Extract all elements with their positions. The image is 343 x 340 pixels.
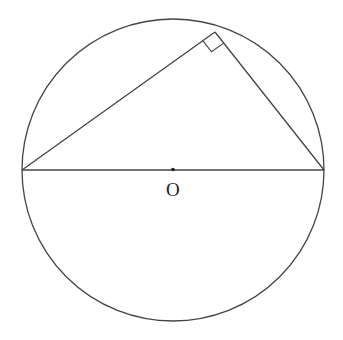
triangle-side-left [22, 32, 215, 170]
right-angle-marker [203, 41, 224, 52]
geometry-diagram: O [0, 0, 343, 340]
center-label: O [166, 179, 180, 200]
center-point [171, 168, 175, 172]
